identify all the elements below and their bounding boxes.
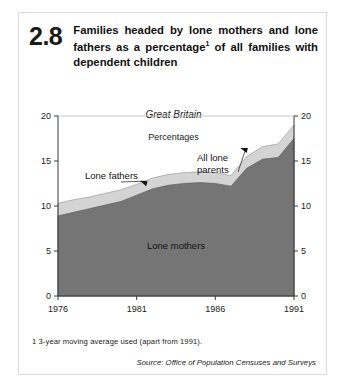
x-tick-label: 1981	[127, 304, 147, 314]
figure-footnote: 1 3-year moving average used (apart from…	[32, 337, 322, 346]
annotation-all-lone-parents-label-line2: parents	[197, 164, 229, 175]
y-tick-label-left: 0	[46, 291, 51, 301]
y-tick-label-right: 15	[301, 156, 311, 166]
stacked-area-chart: 00551010151520201976198119861991 Lone fa…	[19, 13, 328, 376]
annotation-all-lone-parents-arrow	[240, 148, 248, 153]
x-tick-label: 1986	[205, 304, 225, 314]
area-lone-mothers	[58, 139, 294, 297]
y-tick-label-left: 5	[46, 246, 51, 256]
x-tick-label: 1991	[284, 304, 304, 314]
y-tick-label-right: 20	[301, 111, 311, 121]
x-tick-label: 1976	[48, 304, 68, 314]
y-tick-label-right: 0	[301, 291, 306, 301]
chart-series-group	[58, 125, 294, 296]
y-tick-label-right: 5	[301, 246, 306, 256]
figure-source: Source: Office of Population Censuses an…	[137, 358, 316, 367]
annotation-lone-mothers-label: Lone mothers	[147, 240, 205, 251]
chart-plot-area: 00551010151520201976198119861991 Lone fa…	[19, 13, 328, 376]
annotation-lone-fathers-label: Lone fathers	[85, 170, 138, 181]
y-tick-label-left: 10	[41, 201, 51, 211]
figure-panel: 2.8 Families headed by lone mothers and …	[18, 12, 327, 375]
y-tick-label-right: 10	[301, 201, 311, 211]
annotation-all-lone-parents-label-line1: All lone	[197, 152, 228, 163]
y-tick-label-left: 15	[41, 156, 51, 166]
y-tick-label-left: 20	[41, 111, 51, 121]
